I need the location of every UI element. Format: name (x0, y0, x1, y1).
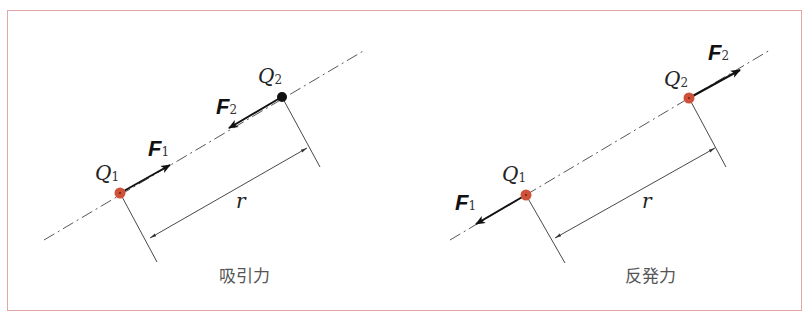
distance-dimension-line (555, 148, 715, 238)
distance-r-label: r (642, 189, 653, 213)
attraction-panel: Q1 Q2 F1 F2 r 吸引力 (44, 50, 365, 286)
force-f2-label: F2 (216, 94, 237, 119)
force-f1-label: F1 (148, 136, 169, 161)
extension-line-q1 (120, 193, 157, 262)
charge-q2-label: Q2 (664, 67, 688, 91)
extension-line-q2 (282, 97, 320, 167)
distance-dimension-line (150, 148, 307, 238)
caption-repulsion: 反発力 (625, 266, 676, 286)
force-arrow-f2 (691, 70, 740, 97)
force-f1-label: F1 (455, 190, 476, 215)
charge-q2-label: Q2 (258, 64, 282, 88)
distance-r-label: r (236, 189, 247, 213)
charge-q2-dot (277, 92, 287, 102)
coulomb-force-diagram: Q1 Q2 F1 F2 r 吸引力 Q1 Q2 F1 F2 r 反発力 (0, 0, 805, 317)
caption-attraction: 吸引力 (219, 266, 270, 286)
charge-q1-label: Q1 (502, 162, 526, 186)
extension-line-q2 (689, 98, 726, 167)
centerline (44, 50, 365, 240)
charge-q1-label: Q1 (95, 161, 119, 185)
force-arrow-f1 (122, 165, 170, 192)
repulsion-panel: Q1 Q2 F1 F2 r 反発力 (450, 40, 770, 286)
force-f2-label: F2 (708, 40, 729, 65)
extension-line-q1 (526, 195, 565, 263)
force-arrow-f1 (476, 196, 524, 224)
